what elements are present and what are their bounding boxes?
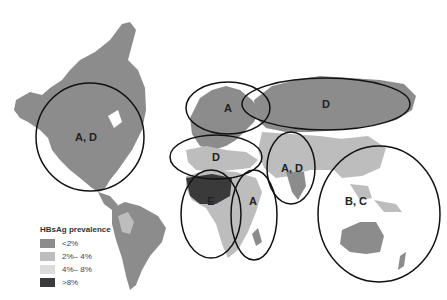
legend-label-high: >8% (62, 278, 78, 287)
region-label-northern-europe: A (224, 102, 232, 114)
europe-landmass (186, 86, 260, 172)
legend-item-high-intermediate: 4%– 8% (40, 263, 150, 275)
region-label-west-africa: E (207, 195, 214, 207)
legend-item-low-intermediate: 2%– 4% (40, 250, 150, 262)
australia-landmass (340, 222, 384, 254)
new-zealand-landmass (398, 252, 406, 270)
legend-swatch-low-intermediate (40, 252, 55, 261)
africa-landmass (186, 170, 262, 258)
region-label-east-africa: A (249, 195, 257, 207)
legend-item-low: <2% (40, 237, 150, 249)
legend-label-low-intermediate: 2%– 4% (62, 252, 92, 261)
legend-swatch-high-intermediate (40, 265, 55, 274)
region-label-asia-pacific: B, C (345, 195, 367, 207)
russia-landmass (254, 76, 416, 132)
region-label-russia: D (322, 98, 330, 110)
legend-swatch-high (40, 278, 55, 287)
legend-swatch-low (40, 239, 55, 248)
north-america-landmass (14, 22, 146, 210)
legend-label-high-intermediate: 4%– 8% (62, 265, 92, 274)
legend-label-low: <2% (62, 239, 78, 248)
legend-item-high: >8% (40, 276, 150, 288)
region-label-middle-east-india: A, D (281, 162, 303, 174)
india-landmass (286, 172, 306, 200)
region-label-north-america: A, D (75, 131, 97, 143)
region-label-southern-europe: D (212, 151, 220, 163)
east-asia-landmass (330, 136, 386, 178)
legend-title: HBsAg prevalence (40, 225, 150, 234)
prevalence-legend: HBsAg prevalence <2% 2%– 4% 4%– 8% >8% (40, 225, 150, 289)
